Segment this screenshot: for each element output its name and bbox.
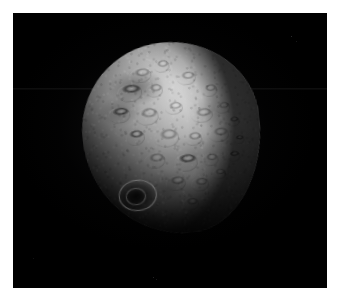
crater (129, 67, 152, 85)
terminator-shadow (73, 33, 270, 243)
crater (202, 152, 219, 166)
crater (209, 126, 230, 142)
page-root (0, 0, 343, 302)
crater (143, 152, 166, 170)
albedo-patches (73, 33, 270, 243)
sensor-noise-speck (296, 41, 297, 42)
crater (145, 83, 164, 98)
crater (211, 167, 226, 180)
crater (190, 107, 213, 125)
crater (108, 106, 131, 124)
crater (125, 129, 146, 146)
crater (153, 128, 180, 149)
crater-chain-crater (233, 134, 246, 145)
crater (165, 175, 186, 191)
crater-chain-crater (227, 115, 240, 127)
nucleus-surface (73, 33, 270, 243)
asteroid-nucleus (83, 42, 261, 234)
crater (174, 153, 199, 173)
crater (200, 83, 217, 97)
sensor-noise-speck (33, 258, 34, 259)
crater (165, 100, 184, 115)
spacecraft-image-frame (13, 13, 327, 288)
large-rimmed-crater (118, 178, 159, 213)
crater-chain-crater (227, 150, 240, 162)
crater (182, 197, 199, 211)
crater (191, 177, 210, 192)
crater (176, 70, 197, 86)
sensor-noise-speck (153, 277, 154, 278)
crater (116, 83, 143, 103)
sensor-noise-speck (291, 36, 292, 37)
right-limb-falloff (73, 33, 270, 243)
crater (153, 59, 170, 73)
crater (184, 131, 203, 146)
sensor-noise-speck (156, 279, 157, 280)
crater (135, 107, 160, 127)
regolith-speckle-texture (73, 33, 270, 243)
crater (215, 101, 230, 114)
large-rimmed-crater-inner (125, 187, 147, 206)
